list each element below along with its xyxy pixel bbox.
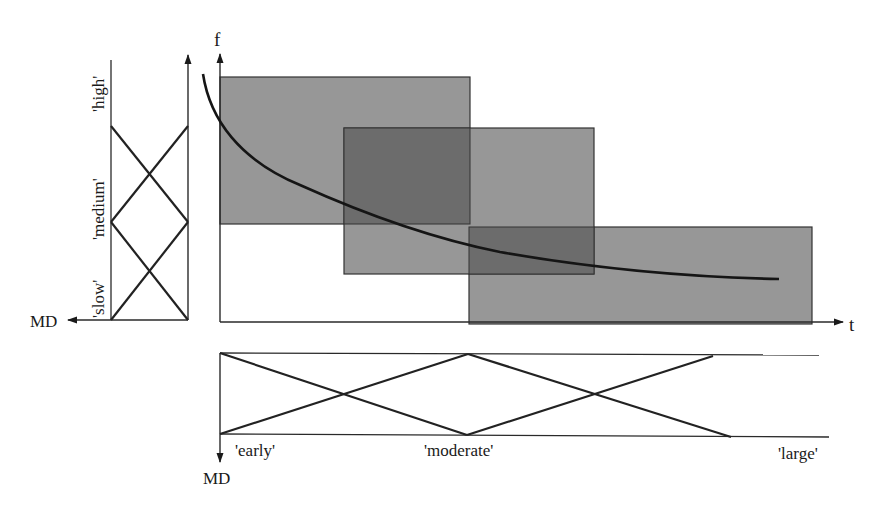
- term-moderate: 'moderate': [424, 441, 493, 460]
- t-axis-label: t: [849, 314, 855, 335]
- term-high: 'high': [89, 76, 108, 112]
- left-md-label: MD: [30, 312, 57, 331]
- bottom-md-label: MD: [203, 469, 230, 488]
- term-slow: 'slow': [89, 280, 108, 318]
- term-early: 'early': [235, 441, 275, 460]
- term-large: 'large': [778, 444, 818, 463]
- fuzzy-diagram: MD 'slow' 'medium' 'high' f t 'early' 'm…: [0, 0, 882, 514]
- term-medium: 'medium': [89, 178, 108, 240]
- large-rise: [467, 356, 713, 435]
- left-membership-panel: MD 'slow' 'medium' 'high': [30, 55, 188, 331]
- overlap-early-moderate: [344, 128, 470, 224]
- main-plot: f t: [203, 29, 855, 335]
- f-axis-label: f: [214, 29, 221, 50]
- bottom-panel-top-edge: [220, 353, 819, 355]
- moderate-fall: [468, 354, 731, 437]
- bottom-panel-bottom-edge: [220, 434, 829, 437]
- bottom-membership-panel: 'early' 'moderate' 'large' MD: [203, 353, 829, 488]
